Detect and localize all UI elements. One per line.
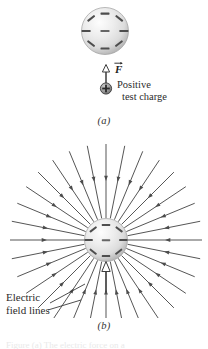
panel-b-graphic [0,132,208,349]
field-line [12,244,85,258]
field-line-arrowhead [46,263,52,267]
field-line [17,203,85,231]
positive-test-charge-glyph [100,83,111,94]
panel-a: F Positive test charge [0,0,208,132]
force-vector-a [102,65,109,85]
field-line [12,221,85,235]
field-line-arrowhead [138,288,142,293]
panel-b-label: (b) [0,320,208,331]
field-line-arrowhead [155,203,160,207]
field-vector-b [102,262,110,293]
negative-sphere-a [82,8,129,55]
field-line [122,256,174,308]
field-line [124,187,186,228]
field-line [118,258,158,318]
field-line [126,203,194,231]
field-line-arrowhead [69,185,73,190]
test-charge-caption-line1: Positive [117,79,151,90]
vector-arrow-overset-f [114,60,123,65]
field-line [69,151,97,219]
field-line [124,252,186,293]
field-lines-caption-line2: field lines [6,304,50,316]
field-line [114,151,142,219]
panel-a-graphic [0,0,208,132]
field-line [126,248,194,276]
field-line [53,160,94,222]
field-line-arrowhead [46,214,52,218]
field-lines-caption-line1: Electric [6,291,40,303]
field-line-arrowhead [139,185,143,190]
field-line [128,244,201,258]
field-line [38,172,90,224]
field-line [26,187,88,228]
field-line-arrowhead [155,273,160,277]
test-charge-caption: Positive test charge [117,79,205,102]
field-line-arrowhead [165,238,170,242]
force-vector-label: F [115,64,122,75]
field-lines-caption: Electric field lines [6,291,82,316]
field-line [122,172,174,224]
field-line-arrowhead [42,238,47,242]
field-line [128,221,201,235]
field-line-arrowhead [80,180,84,186]
field-line-arrowhead [51,273,56,277]
field-line-arrowhead [82,289,86,295]
field-line [87,146,101,219]
negative-sphere-b [84,219,127,262]
field-line-arrowhead [126,289,130,295]
panel-a-label: (a) [0,115,208,126]
panel-b: E [0,132,208,349]
field-line [17,248,85,276]
field-line [110,146,124,219]
figure-root: F Positive test charge (a) [0,0,208,349]
field-line-arrowhead [161,214,167,218]
force-vector-symbol: F [115,63,122,75]
field-line-arrowhead [129,180,133,186]
field-line-arrowhead [161,263,167,267]
test-charge-caption-line2: test charge [117,91,205,103]
clipped-bottom-caption: Figure (a) The electric force on a [6,341,202,349]
field-line [118,160,159,222]
field-line-arrowhead [104,176,108,181]
field-line-arrowhead [51,203,56,207]
